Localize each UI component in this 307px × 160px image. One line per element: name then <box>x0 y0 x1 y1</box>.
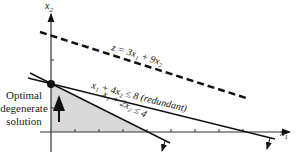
caption-line: Optimal <box>0 89 48 102</box>
optimal-solution-caption: Optimal degenerate solution <box>0 89 48 128</box>
x2-axis-label: x2 <box>44 0 53 14</box>
caption-line: solution <box>0 115 48 128</box>
optimal-point <box>47 80 55 88</box>
caption-line: degenerate <box>0 102 48 115</box>
constraint-binding-direction-arrow <box>162 141 165 151</box>
constraint-redundant-direction-arrow <box>267 138 270 149</box>
lp-diagram: x2 x1 z = 3x₁ + 9x₂ x₁ + 4x₂ ≤ 8 (redund… <box>0 0 307 160</box>
x1-axis-label: x1 <box>279 127 288 141</box>
